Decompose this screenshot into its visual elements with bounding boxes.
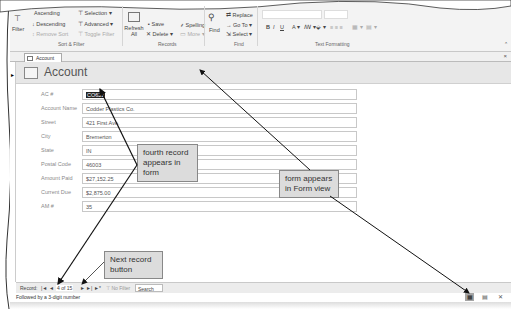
search-input[interactable]: Search: [135, 284, 163, 292]
ribbon: ⊤ Filter Ascending ↓ Descending ↕ Remove…: [10, 0, 511, 52]
field-label: Amount Paid: [41, 175, 73, 181]
callout-form-view: form appears in Form view: [279, 170, 339, 198]
underline-button[interactable]: U: [280, 24, 284, 30]
replace-button[interactable]: ⇄ Replace: [226, 12, 253, 18]
current-record-field[interactable]: 4 of 15: [56, 285, 73, 291]
field-input[interactable]: 35: [82, 201, 357, 212]
form-view-button[interactable]: ▦: [465, 293, 474, 301]
field-value: CO621: [86, 92, 105, 98]
select-button[interactable]: ⇲ Select ▾: [226, 31, 252, 37]
form-icon: [24, 67, 38, 79]
field-value: IN: [86, 148, 92, 154]
record-selector[interactable]: ▸: [10, 62, 16, 282]
last-record-button[interactable]: ►|: [86, 285, 92, 291]
field-value: 35: [86, 204, 92, 210]
layout-view-button[interactable]: ▤: [480, 293, 489, 301]
current-record-arrow-icon: ▸: [11, 71, 14, 78]
callout-fourth-record: fourth record appears in form: [137, 144, 198, 182]
status-text: Followed by a 3-digit number: [16, 294, 80, 300]
fill-color-button[interactable]: ⬙ ▾: [316, 24, 326, 30]
find-group-label: Find: [234, 41, 244, 47]
refresh-all-button[interactable]: Refresh All: [123, 25, 145, 37]
filter-button[interactable]: Filter: [12, 26, 24, 32]
separator: [204, 6, 205, 46]
toggle-filter-button[interactable]: ⊤ Toggle Filter: [78, 31, 114, 37]
field-label: AM #: [41, 203, 54, 209]
goto-button[interactable]: → Go To ▾: [226, 22, 252, 28]
field-value: 46003: [86, 162, 101, 168]
descending-button[interactable]: ↓ Descending: [32, 21, 65, 27]
align-buttons[interactable]: ≡ ≡ ≡: [330, 24, 343, 30]
arrow-to-next-button: [82, 262, 104, 284]
next-record-button[interactable]: ►: [80, 285, 85, 291]
callout-next-record: Next record button: [104, 251, 163, 279]
field-input[interactable]: 46003: [82, 159, 357, 170]
field-value: Codder Plastics Co.: [86, 106, 135, 112]
selection-button[interactable]: ⊤ Selection ▾: [78, 10, 112, 16]
form-header: Account: [16, 62, 511, 84]
text-formatting-group-label: Text Formatting: [315, 41, 349, 47]
delete-button[interactable]: ✕ Delete ▾: [146, 31, 173, 37]
filter-icon: ⊤: [14, 14, 21, 23]
field-label: AC #: [41, 91, 53, 97]
first-record-button[interactable]: |◄: [41, 285, 47, 291]
field-input[interactable]: 421 First Ave.: [82, 117, 357, 128]
collapse-ribbon-icon[interactable]: ⌃: [504, 41, 508, 47]
remove-sort-button[interactable]: ↕ Remove Sort: [32, 31, 68, 37]
field-value: 421 First Ave.: [86, 120, 120, 126]
save-button[interactable]: ▪ Save: [148, 21, 164, 27]
font-name-dropdown[interactable]: [262, 10, 322, 19]
field-value: $27,152.25: [86, 176, 114, 182]
previous-record-button[interactable]: ◄: [49, 285, 54, 291]
tab-label: Account: [36, 55, 54, 61]
field-input[interactable]: Codder Plastics Co.: [82, 103, 357, 114]
no-filter-button[interactable]: ⊤ No Filter: [106, 285, 130, 291]
records-group-label: Records: [158, 41, 177, 47]
form-icon: [27, 56, 33, 61]
document-tab-bar: Account ×: [10, 52, 511, 62]
field-label: Postal Code: [41, 161, 71, 167]
field-value: $2,875.00: [86, 190, 110, 196]
font-size-dropdown[interactable]: [324, 10, 348, 19]
ascending-button[interactable]: Ascending: [34, 10, 60, 16]
separator: [257, 6, 258, 46]
field-label: Current Due: [41, 189, 71, 195]
tab-account[interactable]: Account: [24, 53, 62, 62]
refresh-icon: [128, 12, 140, 22]
design-view-button[interactable]: ✕: [496, 293, 505, 301]
bold-button[interactable]: B: [266, 24, 270, 30]
font-color-button[interactable]: A ▾: [292, 24, 300, 30]
advanced-button[interactable]: ⊤ Advanced ▾: [78, 21, 113, 27]
form-title: Account: [44, 65, 87, 79]
new-record-button[interactable]: ►*: [94, 285, 101, 291]
field-input[interactable]: IN: [82, 145, 357, 156]
italic-button[interactable]: I: [273, 24, 275, 30]
field-label: Street: [41, 119, 56, 125]
record-label: Record:: [20, 285, 38, 291]
torn-edge-top: [0, 0, 511, 14]
sort-filter-group-label: Sort & Filter: [58, 41, 84, 47]
gridlines-button[interactable]: ▦ ▾: [352, 24, 363, 30]
field-value: Bremerton: [86, 134, 112, 140]
highlight-button[interactable]: ꟿ ▾: [304, 24, 316, 30]
spelling-button[interactable]: ⸙ Spelling: [180, 21, 205, 29]
more-button[interactable]: ▭ More ▾: [180, 31, 205, 37]
close-tab-icon[interactable]: ×: [503, 53, 507, 59]
field-label: State: [41, 147, 54, 153]
page-shadow: [10, 302, 511, 309]
find-icon: ⚲: [208, 12, 215, 22]
field-input[interactable]: Bremerton: [82, 131, 357, 142]
field-label: Account Name: [41, 105, 77, 111]
field-input[interactable]: CO621: [82, 89, 357, 100]
field-label: City: [41, 133, 50, 139]
alternate-row-button[interactable]: ▤ ▾: [366, 24, 377, 30]
find-button[interactable]: Find: [209, 27, 220, 33]
